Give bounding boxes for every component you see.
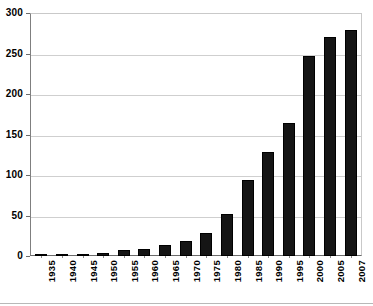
bar-slot [134,13,155,256]
x-tick-mark-1985 [248,256,249,258]
x-tick-mark-1990 [268,256,269,258]
bar-slot [175,13,196,256]
x-tick-mark-1975 [206,256,207,258]
bar-slot [155,13,176,256]
y-tick-label-50: 50 [11,211,23,221]
x-tick-mark-1970 [186,256,187,258]
bar-slot [196,13,217,256]
y-tick-mark-250 [26,54,30,55]
x-tick-mark-1960 [144,256,145,258]
bar-slot [93,13,114,256]
bar-slot [237,13,258,256]
x-tick-mark-1980 [227,256,228,258]
bar-slot [299,13,320,256]
bar-slot [279,13,300,256]
x-slot: 1985 [237,258,258,306]
y-tick-mark-300 [26,13,30,14]
bar-slot [114,13,135,256]
x-slot: 2007 [340,258,361,306]
x-tick-mark-1950 [103,256,104,258]
x-slot: 1940 [52,258,73,306]
x-slot: 1950 [93,258,114,306]
y-tick-label-0: 0 [17,251,23,261]
bottom-divider [0,303,373,304]
x-slot: 1990 [258,258,279,306]
y-axis: 050100150200250300 [0,0,30,306]
y-tick-mark-0 [26,256,30,257]
x-slot: 1965 [155,258,176,306]
bar-1960[interactable] [138,249,150,256]
bar-1965[interactable] [159,245,171,256]
y-tick-label-300: 300 [6,8,23,18]
x-slot: 1975 [196,258,217,306]
x-tick-mark-1940 [62,256,63,258]
bar-2000[interactable] [303,56,315,256]
y-tick-mark-200 [26,94,30,95]
bar-slot [217,13,238,256]
y-tick-label-100: 100 [6,170,23,180]
x-slot: 1980 [217,258,238,306]
x-tick-mark-2007 [351,256,352,258]
bar-1970[interactable] [180,241,192,256]
x-tick-mark-2005 [330,256,331,258]
x-tick-mark-1945 [83,256,84,258]
bar-slot [258,13,279,256]
x-tick-mark-1955 [124,256,125,258]
x-axis: 1935194019451950195519601965197019751980… [31,258,361,306]
x-slot: 2005 [320,258,341,306]
x-slot: 1945 [72,258,93,306]
bar-1985[interactable] [242,180,254,256]
bars-layer [31,13,361,256]
y-tick-label-250: 250 [6,49,23,59]
y-tick-mark-50 [26,216,30,217]
bar-2005[interactable] [324,37,336,256]
x-slot: 1995 [279,258,300,306]
x-tick-mark-2000 [309,256,310,258]
y-tick-label-150: 150 [6,130,23,140]
x-slot: 2000 [299,258,320,306]
bar-slot [340,13,361,256]
bar-slot [31,13,52,256]
bar-slot [320,13,341,256]
x-slot: 1970 [175,258,196,306]
bar-1975[interactable] [200,233,212,256]
bar-2007[interactable] [345,30,357,256]
y-tick-mark-150 [26,135,30,136]
bar-slot [52,13,73,256]
x-tick-label-2007: 2007 [355,260,366,282]
bar-1990[interactable] [262,152,274,256]
x-tick-mark-1965 [165,256,166,258]
bar-chart: 050100150200250300 193519401945195019551… [0,0,373,306]
bar-1995[interactable] [283,123,295,256]
y-tick-label-200: 200 [6,89,23,99]
y-tick-mark-100 [26,175,30,176]
bar-1980[interactable] [221,214,233,256]
x-slot: 1960 [134,258,155,306]
x-tick-mark-1935 [41,256,42,258]
x-tick-mark-1995 [289,256,290,258]
x-slot: 1955 [114,258,135,306]
bar-slot [72,13,93,256]
x-slot: 1935 [31,258,52,306]
